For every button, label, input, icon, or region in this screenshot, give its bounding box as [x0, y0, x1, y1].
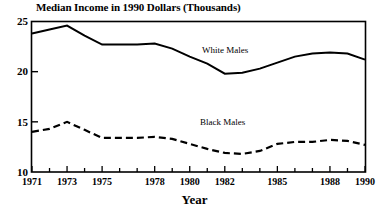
- y-tick-label-15: 15: [6, 116, 28, 128]
- x-tick-marks: [32, 166, 365, 172]
- x-tick-label-1985: 1985: [259, 176, 295, 187]
- data-series-lines: [32, 26, 365, 154]
- plot-frame: [32, 22, 366, 173]
- series-annotation-black-males: Black Males: [200, 117, 245, 127]
- y-tick-marks: [32, 72, 38, 122]
- y-tick-label-20: 20: [6, 65, 28, 77]
- x-tick-label-1980: 1980: [172, 176, 208, 187]
- series-annotation-white-males: White Males: [202, 45, 248, 55]
- x-tick-label-1973: 1973: [49, 176, 85, 187]
- series-line-black-males: [32, 122, 365, 154]
- x-tick-label-1971: 1971: [14, 176, 50, 187]
- x-tick-label-1988: 1988: [312, 176, 348, 187]
- y-tick-label-25: 25: [6, 15, 28, 27]
- x-axis-title: Year: [0, 192, 389, 208]
- x-tick-label-1982: 1982: [207, 176, 243, 187]
- x-tick-label-1975: 1975: [84, 176, 120, 187]
- x-tick-label-1978: 1978: [137, 176, 173, 187]
- series-line-white-males: [32, 26, 365, 74]
- chart-figure: Median Income in 1990 Dollars (Thousands…: [0, 0, 389, 217]
- x-tick-label-1990: 1990: [347, 176, 383, 187]
